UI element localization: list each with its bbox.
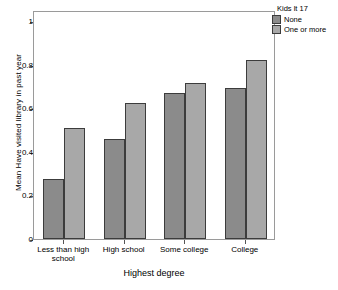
x-axis: Less than high schoolHigh schoolSome col… — [33, 240, 275, 270]
legend-label: None — [284, 15, 302, 24]
y-axis-tick-label: 0.2 — [15, 192, 33, 200]
x-axis-tick-label: Some college — [155, 245, 213, 254]
legend-label: One or more — [284, 25, 326, 34]
x-axis-tick-mark — [184, 240, 185, 244]
legend-item: One or more — [272, 25, 338, 34]
bars-container — [34, 12, 274, 239]
legend-title: Kids lt 17 — [277, 4, 338, 13]
x-axis-tick-mark — [124, 240, 125, 244]
bar — [104, 139, 125, 239]
legend: Kids lt 17 NoneOne or more — [272, 4, 338, 35]
plot-area — [33, 11, 275, 240]
y-axis: 00.20.40.60.81 — [10, 0, 33, 290]
x-axis-tick-label: High school — [95, 245, 153, 254]
bar — [43, 179, 64, 239]
y-axis-tick-label: 0 — [15, 236, 33, 244]
legend-entries: NoneOne or more — [272, 15, 338, 34]
bar — [185, 83, 206, 239]
bar — [125, 103, 146, 239]
y-axis-tick-label: 0.8 — [15, 62, 33, 70]
y-axis-tick-label: 0.4 — [15, 149, 33, 157]
bar — [246, 60, 267, 239]
legend-swatch-icon — [272, 15, 281, 24]
y-axis-tick-label: 0.6 — [15, 105, 33, 113]
legend-swatch-icon — [272, 25, 281, 34]
bar-chart: Mean Have visited library in past year 0… — [0, 0, 338, 290]
bar — [164, 93, 185, 239]
x-axis-tick-mark — [63, 240, 64, 244]
bar — [64, 128, 85, 239]
y-axis-tick-label: 1 — [15, 18, 33, 26]
x-axis-tick-label: College — [216, 245, 274, 254]
x-axis-tick-mark — [245, 240, 246, 244]
x-axis-title: Highest degree — [33, 268, 275, 278]
bar — [225, 88, 246, 239]
legend-item: None — [272, 15, 338, 24]
x-axis-tick-label: Less than high school — [34, 245, 92, 263]
